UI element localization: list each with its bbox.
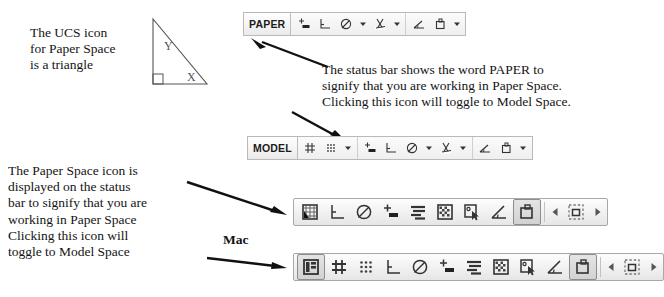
polar-tracking-icon[interactable] bbox=[351, 200, 377, 224]
arrow-paper-toolbar bbox=[248, 36, 332, 70]
object-snap-tracking-icon[interactable] bbox=[476, 138, 495, 158]
model-mode-label[interactable]: MODEL bbox=[248, 137, 298, 159]
object-snap-dropdown-icon[interactable] bbox=[458, 138, 469, 158]
grid-display-icon[interactable] bbox=[326, 255, 352, 279]
polar-dropdown-icon[interactable] bbox=[424, 138, 435, 158]
paper-space-icon[interactable] bbox=[569, 254, 597, 280]
mac-status-bar-model[interactable] bbox=[293, 253, 664, 281]
note-ucs-icon: The UCS icon for Paper Space is a triang… bbox=[30, 25, 115, 74]
ortho-mode-icon[interactable] bbox=[380, 255, 406, 279]
viewport-select-icon[interactable] bbox=[619, 255, 645, 279]
note-paper-space-icon: The Paper Space icon is displayed on the… bbox=[8, 163, 147, 260]
note-paper-icon-line-5: Clicking this icon will bbox=[8, 228, 147, 244]
note-paper-icon-line-4: working in Paper Space bbox=[8, 212, 147, 228]
dynamic-input-icon[interactable] bbox=[405, 200, 431, 224]
arrow-mac-row-1 bbox=[185, 180, 290, 218]
arrow-mac-row-2 bbox=[205, 252, 290, 274]
polar-tracking-icon[interactable] bbox=[403, 138, 422, 158]
object-snap-tracking-icon[interactable] bbox=[459, 200, 485, 224]
note-ucs-line-1: The UCS icon bbox=[30, 25, 115, 41]
polar-dropdown-icon[interactable] bbox=[357, 14, 368, 34]
note-ucs-line-3: is a triangle bbox=[30, 57, 115, 73]
note-paper-status: The status bar shows the word PAPER to s… bbox=[322, 62, 571, 111]
scroll-right-icon[interactable] bbox=[646, 255, 660, 279]
mac-status-bar-paper[interactable] bbox=[293, 198, 608, 226]
ortho-mode-icon[interactable] bbox=[382, 138, 401, 158]
object-snap-dropdown-icon[interactable] bbox=[391, 14, 402, 34]
model-toolbar-group-3 bbox=[473, 137, 532, 159]
dynamic-input-icon[interactable] bbox=[461, 255, 487, 279]
ucs-icon[interactable] bbox=[497, 138, 516, 158]
snap-grid-dots-icon[interactable] bbox=[353, 255, 379, 279]
snap-mode-icon[interactable] bbox=[294, 14, 313, 34]
ucs-icon[interactable] bbox=[430, 14, 449, 34]
grid-display-icon[interactable] bbox=[301, 138, 320, 158]
snap-mode-icon[interactable] bbox=[434, 255, 460, 279]
snap-dropdown-icon[interactable] bbox=[343, 138, 354, 158]
note-paper-icon-line-3: bar to signify that you are bbox=[8, 195, 147, 211]
note-paper-status-line-2: signify that you are working in Paper Sp… bbox=[322, 78, 571, 94]
layout-space-icon[interactable] bbox=[297, 254, 325, 280]
ucs-dropdown-icon[interactable] bbox=[518, 138, 529, 158]
object-snap-icon[interactable] bbox=[437, 138, 456, 158]
paper-toolbar-group-1 bbox=[291, 13, 406, 35]
mac-separator-2 bbox=[600, 257, 601, 277]
ortho-mode-icon[interactable] bbox=[315, 14, 334, 34]
mac-separator-1 bbox=[544, 202, 545, 222]
viewport-select-icon[interactable] bbox=[563, 200, 589, 224]
object-snap-tracking-icon[interactable] bbox=[515, 255, 541, 279]
model-toolbar-group-1 bbox=[298, 137, 358, 159]
model-status-bar[interactable]: MODEL bbox=[247, 136, 533, 160]
note-paper-status-line-3: Clicking this icon will toggle to Model … bbox=[322, 94, 571, 110]
note-paper-icon-line-1: The Paper Space icon is bbox=[8, 163, 147, 179]
paper-toolbar-group-2 bbox=[406, 13, 465, 35]
snap-grid-dots-icon[interactable] bbox=[322, 138, 341, 158]
note-paper-status-line-1: The status bar shows the word PAPER to bbox=[322, 62, 571, 78]
note-paper-icon-line-2: displayed on the status bbox=[8, 179, 147, 195]
note-paper-icon-line-6: toggle to Model Space bbox=[8, 244, 147, 260]
svg-text:X: X bbox=[187, 70, 196, 84]
snap-mode-icon[interactable] bbox=[361, 138, 380, 158]
note-ucs-line-2: for Paper Space bbox=[30, 41, 115, 57]
grid-snap-cursor-icon[interactable] bbox=[297, 200, 323, 224]
polar-tracking-icon[interactable] bbox=[407, 255, 433, 279]
ucs-angle-icon[interactable] bbox=[486, 200, 512, 224]
ucs-dropdown-icon[interactable] bbox=[451, 14, 462, 34]
paper-status-bar[interactable]: PAPER bbox=[243, 12, 466, 36]
scroll-right-icon[interactable] bbox=[590, 200, 604, 224]
scroll-left-icon[interactable] bbox=[548, 200, 562, 224]
object-snap-icon[interactable] bbox=[370, 14, 389, 34]
ucs-paper-space-triangle-icon: Y X bbox=[146, 14, 212, 96]
paper-space-icon[interactable] bbox=[513, 199, 541, 225]
scroll-left-icon[interactable] bbox=[604, 255, 618, 279]
object-snap-icon[interactable] bbox=[488, 255, 514, 279]
paper-mode-label[interactable]: PAPER bbox=[244, 13, 291, 35]
mac-label: Mac bbox=[223, 232, 248, 248]
ucs-angle-icon[interactable] bbox=[542, 255, 568, 279]
object-snap-icon[interactable] bbox=[432, 200, 458, 224]
model-toolbar-group-2 bbox=[358, 137, 473, 159]
object-snap-tracking-icon[interactable] bbox=[409, 14, 428, 34]
polar-tracking-icon[interactable] bbox=[336, 14, 355, 34]
svg-text:Y: Y bbox=[164, 39, 173, 53]
snap-mode-icon[interactable] bbox=[378, 200, 404, 224]
ortho-mode-icon[interactable] bbox=[324, 200, 350, 224]
